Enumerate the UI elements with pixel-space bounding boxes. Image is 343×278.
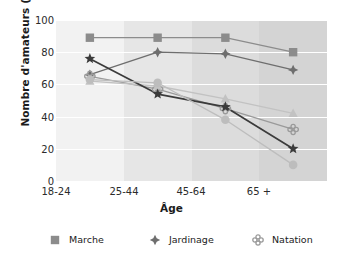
clover-outline-marker-icon — [251, 233, 265, 247]
plot-area — [56, 20, 327, 181]
x-tick-label: 65 + — [224, 186, 294, 197]
square-marker-icon — [48, 233, 62, 247]
series-lines — [90, 38, 293, 165]
legend-item-natation[interactable]: Natation — [251, 229, 343, 250]
four-point-star-marker-icon — [148, 233, 162, 247]
gridline — [56, 181, 327, 182]
legend-label: Natation — [272, 234, 313, 245]
y-tick-label: 80 — [20, 48, 54, 58]
chart-figure: Nombre d'amateurs (%) 100 80 60 40 20 0 … — [0, 0, 343, 278]
x-tick-label: 25-44 — [89, 186, 159, 197]
legend-label: Jardinage — [169, 234, 214, 245]
y-tick-label: 100 — [20, 16, 54, 26]
legend-label: Marche — [69, 234, 104, 245]
x-axis-title: Âge — [0, 202, 343, 214]
y-tick-label: 60 — [20, 80, 54, 90]
x-tick-label: 45-64 — [156, 186, 226, 197]
y-tick-label: 40 — [20, 113, 54, 123]
chart-legend: Marche Jardinage Natation Exercices Dans… — [48, 229, 338, 250]
x-tick-label: 18-24 — [21, 186, 91, 197]
legend-item-jardinage[interactable]: Jardinage — [148, 229, 251, 250]
data-series-layer — [56, 20, 327, 181]
y-tick-label: 20 — [20, 145, 54, 155]
legend-item-marche[interactable]: Marche — [48, 229, 148, 250]
